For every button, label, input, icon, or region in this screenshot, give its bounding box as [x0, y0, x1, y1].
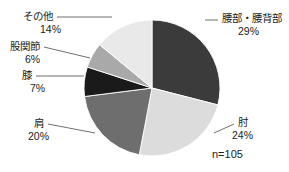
- leader-line: [214, 124, 234, 133]
- slice-percent-label: 14%: [40, 23, 61, 35]
- slice-label: その他: [23, 10, 54, 22]
- sample-size-label: n=105: [212, 148, 243, 160]
- slice-percent-label: 29%: [238, 25, 259, 37]
- leader-line: [48, 124, 95, 133]
- slice-percent-label: 7%: [30, 82, 45, 94]
- pie-chart-figure: 腰部・腰背部29%肘24%肩20%膝7%股関節6%その他14% n=105: [0, 0, 289, 172]
- slice-percent-label: 6%: [25, 53, 40, 65]
- leader-line: [44, 47, 90, 58]
- pie-chart-svg: 腰部・腰背部29%肘24%肩20%膝7%股関節6%その他14% n=105: [0, 0, 289, 172]
- slice-label: 膝: [22, 69, 33, 81]
- slice-label: 肩: [34, 117, 44, 129]
- pie-slices-group: [84, 20, 220, 156]
- slice-label: 腰部・腰背部: [222, 12, 282, 24]
- slice-percent-label: 24%: [232, 129, 253, 141]
- slice-label: 肘: [238, 116, 249, 128]
- slice-label: 股関節: [10, 40, 40, 52]
- slice-percent-label: 20%: [28, 130, 49, 142]
